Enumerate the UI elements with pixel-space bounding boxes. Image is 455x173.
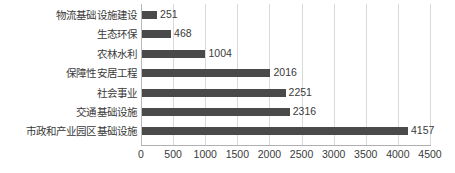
x-tick-label: 0	[138, 148, 144, 161]
bar-value-label: 468	[174, 28, 192, 39]
x-tick-label: 500	[164, 148, 182, 161]
bar[interactable]	[141, 127, 408, 135]
x-axis-line	[141, 145, 431, 146]
x-tick-label: 1500	[226, 148, 249, 161]
category-label: 物流基础设施建设	[0, 9, 137, 21]
gridline	[302, 4, 303, 145]
gridline	[334, 4, 335, 145]
plot-area: 25146810042016225123164157	[141, 4, 430, 145]
category-label: 社会事业	[0, 87, 137, 99]
x-tick-label: 2000	[258, 148, 281, 161]
x-axis-tick-labels: 050010001500200025003000350040004500	[0, 148, 455, 164]
bar[interactable]	[141, 50, 205, 58]
x-tick-label: 2500	[290, 148, 313, 161]
category-label: 保障性安居工程	[0, 67, 137, 79]
bar-value-label: 4157	[411, 125, 434, 136]
gridline	[398, 4, 399, 145]
bar[interactable]	[141, 30, 171, 38]
bar-value-label: 1004	[208, 48, 231, 59]
category-axis-labels: 物流基础设施建设生态环保农林水利保障性安居工程社会事业交通基础设施市政和产业园区…	[0, 0, 137, 145]
category-label: 市政和产业园区基础设施	[0, 125, 137, 137]
x-tick-label: 3500	[354, 148, 377, 161]
bar-value-label: 2251	[289, 87, 312, 98]
bar-value-label: 251	[160, 9, 178, 20]
bar-chart: 物流基础设施建设生态环保农林水利保障性安居工程社会事业交通基础设施市政和产业园区…	[0, 0, 455, 173]
category-label: 生态环保	[0, 28, 137, 40]
bar-value-label: 2316	[293, 106, 316, 117]
bar[interactable]	[141, 108, 290, 116]
gridline	[366, 4, 367, 145]
category-label: 交通基础设施	[0, 106, 137, 118]
bar-value-label: 2016	[273, 67, 296, 78]
x-tick-label: 4000	[386, 148, 409, 161]
bar[interactable]	[141, 11, 157, 19]
bar[interactable]	[141, 89, 286, 97]
x-tick-label: 4500	[418, 148, 441, 161]
x-tick-label: 1000	[194, 148, 217, 161]
x-tick-label: 3000	[322, 148, 345, 161]
category-label: 农林水利	[0, 48, 137, 60]
bar[interactable]	[141, 69, 270, 77]
y-axis-line	[141, 4, 142, 145]
